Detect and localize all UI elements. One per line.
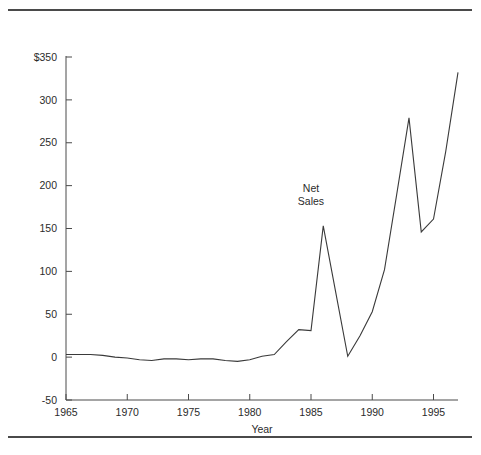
svg-text:1990: 1990: [361, 406, 385, 418]
svg-text:1965: 1965: [54, 406, 78, 418]
chart-tick-marks: [66, 57, 434, 400]
chart-figure: -50050100150200250300$350 19651970197519…: [0, 0, 481, 455]
x-axis-tick-labels: 1965197019751980198519901995: [54, 406, 445, 418]
svg-text:$350: $350: [34, 51, 58, 63]
svg-text:250: 250: [39, 136, 57, 148]
svg-text:300: 300: [39, 94, 57, 106]
y-axis-tick-labels: -50050100150200250300$350: [34, 51, 58, 406]
svg-text:1985: 1985: [299, 406, 323, 418]
svg-text:1970: 1970: [116, 406, 140, 418]
chart-axes: [66, 56, 458, 400]
net-sales-annotation-line1: Net: [303, 182, 319, 194]
top-horizontal-rule: [8, 9, 472, 11]
svg-text:-50: -50: [42, 394, 57, 406]
svg-text:1995: 1995: [422, 406, 446, 418]
x-axis-title: Year: [251, 423, 273, 435]
svg-text:150: 150: [39, 222, 57, 234]
svg-text:1980: 1980: [238, 406, 262, 418]
svg-text:100: 100: [39, 265, 57, 277]
svg-text:200: 200: [39, 179, 57, 191]
net-sales-line-chart: -50050100150200250300$350 19651970197519…: [0, 0, 481, 455]
svg-text:0: 0: [51, 351, 57, 363]
net-sales-annotation-line2: Sales: [298, 195, 324, 207]
svg-text:50: 50: [45, 308, 57, 320]
net-sales-series-line: [66, 72, 458, 361]
bottom-horizontal-rule: [8, 436, 472, 438]
svg-text:1975: 1975: [177, 406, 201, 418]
